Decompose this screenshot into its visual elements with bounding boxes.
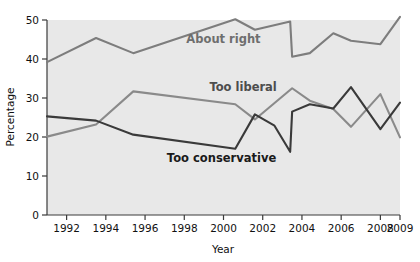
y-tick-label: 20	[26, 131, 39, 143]
y-tick-label: 40	[26, 53, 39, 65]
y-tick-label: 0	[32, 209, 39, 221]
y-tick-label: 50	[26, 14, 39, 26]
plot-background	[47, 20, 400, 215]
x-tick-label: 2009	[387, 222, 414, 234]
x-tick-label: 1998	[171, 222, 198, 234]
series-label-too-liberal: Too liberal	[209, 80, 276, 94]
x-axis-title: Year	[211, 243, 235, 255]
x-tick-label: 2002	[249, 222, 276, 234]
chart-container: 01020304050 1992199419961998200020022004…	[0, 0, 420, 262]
x-tick-label: 1992	[53, 222, 80, 234]
series-label-too-conservative: Too conservative	[167, 151, 277, 165]
x-tick-label: 1994	[92, 222, 119, 234]
y-tick-label: 30	[26, 92, 39, 104]
x-tick-label: 2006	[328, 222, 355, 234]
x-tick-label: 1996	[132, 222, 159, 234]
series-label-about-right: About right	[186, 32, 261, 46]
x-tick-label: 2004	[289, 222, 316, 234]
y-axis-ticks: 01020304050	[26, 14, 47, 221]
x-axis-ticks: 1992199419961998200020022004200620082009	[53, 215, 413, 234]
line-chart: 01020304050 1992199419961998200020022004…	[0, 0, 420, 262]
x-tick-label: 2000	[210, 222, 237, 234]
y-axis-title: Percentage	[4, 87, 16, 146]
y-tick-label: 10	[26, 170, 39, 182]
